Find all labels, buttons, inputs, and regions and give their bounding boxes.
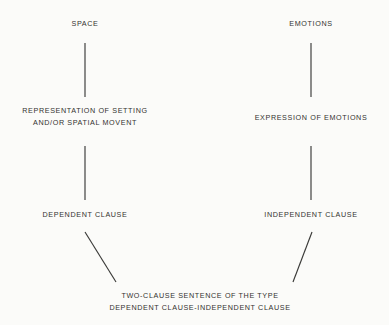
node-emotions: EMOTIONS [289, 18, 332, 30]
node-two-clause-sentence: TWO-CLAUSE SENTENCE OF THE TYPE DEPENDEN… [109, 290, 290, 313]
node-representation-of-setting: REPRESENTATION OF SETTING AND/OR SPATIAL… [22, 105, 147, 128]
connector-dependent-to-two-clause [85, 232, 116, 282]
node-expression-line-1: EXPRESSION OF EMOTIONS [255, 112, 368, 124]
node-space-line-1: SPACE [72, 18, 99, 30]
node-dependent-clause: DEPENDENT CLAUSE [43, 209, 128, 221]
node-two-clause-sentence-line-1: TWO-CLAUSE SENTENCE OF THE TYPE [109, 290, 290, 302]
node-independent-clause: INDEPENDENT CLAUSE [264, 209, 357, 221]
node-dependent-clause-line-1: DEPENDENT CLAUSE [43, 209, 128, 221]
node-representation-line-2: AND/OR SPATIAL MOVENT [22, 117, 147, 129]
node-two-clause-sentence-line-2: DEPENDENT CLAUSE-INDEPENDENT CLAUSE [109, 302, 290, 314]
node-independent-clause-line-1: INDEPENDENT CLAUSE [264, 209, 357, 221]
connector-independent-to-two-clause [293, 232, 312, 282]
node-representation-line-1: REPRESENTATION OF SETTING [22, 105, 147, 117]
node-expression-of-emotions: EXPRESSION OF EMOTIONS [255, 112, 368, 124]
diagram-canvas: SPACE EMOTIONS REPRESENTATION OF SETTING… [0, 0, 389, 325]
node-emotions-line-1: EMOTIONS [289, 18, 332, 30]
node-space: SPACE [72, 18, 99, 30]
connector-layer [0, 0, 389, 325]
